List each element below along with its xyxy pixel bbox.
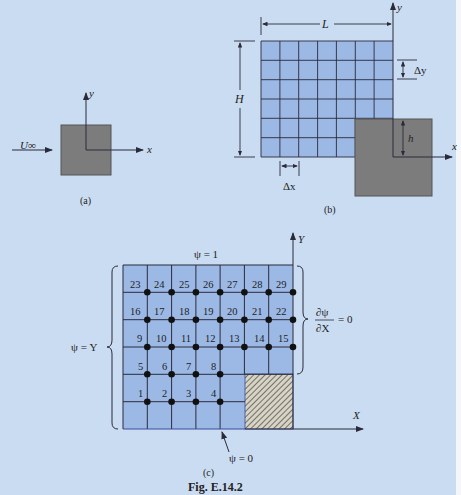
x-axis-label: x: [146, 143, 152, 155]
node-label: 29: [276, 279, 287, 290]
node-label: 7: [186, 361, 191, 372]
node-label: 18: [179, 306, 190, 317]
node-label: 6: [162, 361, 167, 372]
node-label: 28: [252, 279, 263, 290]
right-brace: [297, 266, 308, 374]
freestream-label: U∞: [20, 139, 36, 151]
node-label: 26: [203, 279, 214, 290]
figure-caption: Fig. E.14.2: [188, 480, 243, 494]
step-height-label: h: [408, 132, 414, 144]
node-label: 23: [130, 279, 141, 290]
node-label: 5: [138, 361, 143, 372]
node-label: 14: [254, 333, 265, 344]
node-label: 25: [179, 279, 190, 290]
dy-label: Δy: [414, 64, 427, 76]
node-label: 15: [278, 333, 289, 344]
node-label: 12: [205, 333, 216, 344]
node-label: 20: [227, 306, 238, 317]
panel-b-label: (b): [324, 204, 336, 216]
panel-c: Y X 23 24 25 26 27 28 29 16 17 18 19 20 …: [71, 233, 363, 479]
dx-label: Δx: [283, 180, 296, 192]
top-boundary-condition: ψ = 1: [194, 248, 218, 260]
bottom-bc-pointer: [222, 432, 229, 452]
node-label: 27: [227, 279, 238, 290]
panel-b: y x L H Δx Δy h (b): [234, 1, 457, 216]
left-brace: [107, 266, 118, 429]
node-label: 17: [154, 306, 165, 317]
x-axis-label: X: [352, 409, 361, 421]
figure-e14-2: U∞ y x (a) y x L H: [0, 0, 461, 495]
node-label: 9: [137, 333, 142, 344]
node-label: 1: [138, 388, 143, 399]
right-bc-equals: = 0: [338, 313, 353, 325]
length-label: L: [321, 17, 329, 31]
node-label: 8: [211, 361, 216, 372]
y-axis-label: Y: [298, 233, 306, 245]
node-label: 11: [181, 333, 191, 344]
height-label: H: [234, 92, 245, 106]
node-label: 21: [252, 306, 263, 317]
x-axis-label: x: [451, 140, 457, 152]
node-label: 16: [130, 306, 141, 317]
panel-a-label: (a): [80, 195, 91, 207]
panel-a: U∞ y x (a): [12, 87, 152, 207]
node-label: 10: [156, 333, 167, 344]
right-bc-numerator: ∂ψ: [316, 306, 328, 318]
node-label: 19: [203, 306, 214, 317]
right-bc-denominator: ∂X: [316, 322, 329, 334]
node-label: 2: [162, 388, 167, 399]
node-label: 13: [229, 333, 240, 344]
node-label: 24: [154, 279, 165, 290]
y-axis-label: y: [88, 87, 94, 99]
hatched-obstacle: [245, 374, 293, 429]
panel-c-label: (c): [203, 467, 214, 479]
y-axis-label: y: [396, 1, 402, 13]
node-label: 22: [276, 306, 287, 317]
node-label: 4: [211, 388, 217, 399]
node-label: 3: [186, 388, 191, 399]
left-boundary-condition: ψ = Y: [71, 341, 98, 353]
bottom-boundary-condition: ψ = 0: [229, 452, 254, 464]
